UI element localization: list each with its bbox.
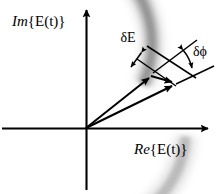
imaginary-axis-label: Im{E(t)} (11, 13, 66, 30)
imaginary-axis-label-rest: {E(t)} (28, 13, 66, 30)
nominal-phasor-vector (86, 78, 149, 128)
real-axis-label-italic: Re (133, 141, 150, 157)
phasor-vectors (86, 76, 172, 128)
diagram-canvas: δE δϕ Im{E(t)} Re{E(t)} (0, 0, 221, 194)
phasor-diagram-figure: δE δϕ Im{E(t)} Re{E(t)} (0, 0, 221, 194)
delta-phi-double-arrow (183, 50, 192, 68)
amplitude-noise-band (0, 0, 221, 194)
delta-e-label: δE (120, 30, 135, 45)
imaginary-axis-label-italic: Im (11, 13, 28, 29)
delta-phi-label: δϕ (193, 44, 207, 59)
real-axis-label-rest: {E(t)} (150, 141, 188, 158)
perturbed-phasor-vector (86, 86, 172, 128)
real-axis-label: Re{E(t)} (133, 141, 188, 158)
